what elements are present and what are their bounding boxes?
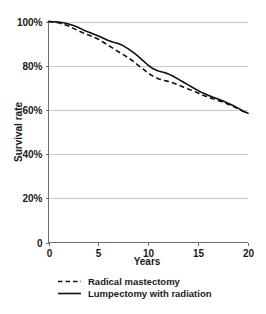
x-tick-label-5: 5	[96, 248, 102, 259]
gridlines-group	[49, 23, 249, 199]
y-tick-label-60: 60%	[22, 105, 42, 116]
legend-label-lumpectomy-with-radiation: Lumpectomy with radiation	[88, 288, 212, 299]
y-axis-title: Survival rate	[13, 102, 24, 162]
x-tick-label-0: 0	[47, 248, 53, 259]
chart-legend: Radical mastectomy Lumpectomy with radia…	[58, 276, 212, 299]
y-tick-label-100: 100%	[17, 17, 43, 28]
series-line-lumpectomy-with-radiation	[49, 22, 249, 114]
survival-rate-chart-figure: 020%40%60%80%100% 05101520 Years Surviva…	[0, 0, 266, 314]
x-tick-label-15: 15	[193, 248, 205, 259]
x-tick-label-20: 20	[243, 248, 255, 259]
y-tick-label-80: 80%	[22, 61, 42, 72]
legend-label-radical-mastectomy: Radical mastectomy	[88, 276, 181, 287]
data-series-group	[49, 22, 249, 114]
y-tick-label-20: 20%	[22, 193, 42, 204]
x-axis-title: Years	[134, 256, 161, 267]
y-tick-label-0: 0	[37, 238, 43, 249]
axes-group	[49, 21, 249, 243]
y-tick-label-40: 40%	[22, 149, 42, 160]
chart-canvas: 020%40%60%80%100% 05101520 Years Surviva…	[0, 0, 266, 314]
